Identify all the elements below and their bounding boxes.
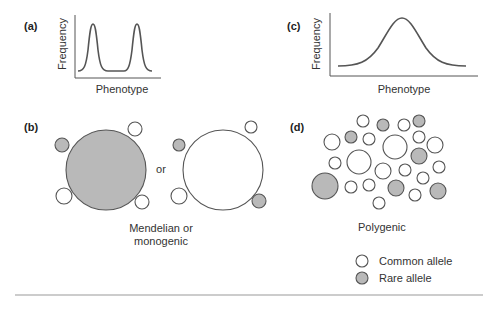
common-allele bbox=[345, 181, 357, 193]
rare-allele bbox=[377, 119, 389, 131]
panel-d: (d) Polygenic bbox=[290, 115, 446, 233]
rare-allele-small bbox=[55, 138, 69, 152]
panel-c-xlabel: Phenotype bbox=[378, 83, 431, 95]
panel-d-caption: Polygenic bbox=[358, 221, 406, 233]
panel-c-label: (c) bbox=[287, 20, 301, 32]
panel-c-axes bbox=[330, 13, 478, 76]
common-allele bbox=[417, 172, 429, 184]
legend-rare-allele-icon bbox=[356, 272, 368, 284]
common-allele bbox=[363, 133, 375, 145]
common-allele bbox=[363, 179, 375, 191]
common-allele-small bbox=[135, 195, 149, 209]
panel-b-caption-line1: Mendelian or bbox=[129, 222, 193, 234]
panel-a-xlabel: Phenotype bbox=[96, 83, 149, 95]
panel-b: (b) or Mendelian or monogenic bbox=[24, 121, 266, 247]
common-allele bbox=[409, 189, 421, 201]
panel-a-label: (a) bbox=[24, 20, 38, 32]
panel-d-label: (d) bbox=[290, 121, 304, 133]
panel-a-bimodal-curve bbox=[78, 24, 152, 71]
rare-allele bbox=[413, 115, 425, 127]
common-allele bbox=[347, 150, 371, 174]
common-allele-small bbox=[171, 188, 187, 204]
common-allele-large bbox=[183, 130, 263, 210]
rare-allele-small bbox=[173, 139, 185, 151]
common-allele bbox=[383, 135, 407, 159]
panel-a: (a) Frequency Phenotype bbox=[24, 15, 161, 95]
rare-allele bbox=[388, 180, 404, 196]
rare-allele bbox=[345, 131, 357, 143]
legend-rare-allele-label: Rare allele bbox=[379, 272, 432, 284]
rare-allele bbox=[411, 148, 427, 164]
legend-common-allele-icon bbox=[356, 255, 368, 267]
common-allele bbox=[398, 119, 410, 131]
common-allele-small bbox=[245, 121, 257, 133]
common-allele bbox=[375, 163, 391, 179]
common-allele bbox=[399, 164, 411, 176]
common-allele bbox=[329, 157, 341, 169]
figure: (a) Frequency Phenotype (c) Frequency Ph… bbox=[0, 0, 492, 310]
common-allele bbox=[433, 161, 445, 173]
panel-c: (c) Frequency Phenotype bbox=[287, 13, 478, 95]
common-allele bbox=[324, 134, 340, 150]
rare-allele bbox=[430, 183, 446, 199]
common-allele bbox=[357, 115, 369, 127]
rare-allele bbox=[312, 173, 338, 199]
rare-allele-large bbox=[66, 130, 146, 210]
rare-allele-small bbox=[252, 194, 266, 208]
common-allele-small bbox=[56, 188, 72, 204]
legend-common-allele-label: Common allele bbox=[379, 255, 452, 267]
common-allele bbox=[413, 131, 425, 143]
or-connector: or bbox=[156, 163, 166, 175]
panel-a-ylabel: Frequency bbox=[56, 18, 68, 70]
panel-b-caption-line2: monogenic bbox=[134, 235, 188, 247]
panel-c-bell-curve bbox=[338, 18, 466, 66]
common-allele bbox=[427, 137, 443, 153]
common-allele bbox=[373, 197, 385, 209]
panel-b-label: (b) bbox=[24, 121, 38, 133]
legend: Common allele Rare allele bbox=[356, 255, 452, 284]
panel-c-ylabel: Frequency bbox=[310, 18, 322, 70]
common-allele-small bbox=[128, 122, 142, 136]
